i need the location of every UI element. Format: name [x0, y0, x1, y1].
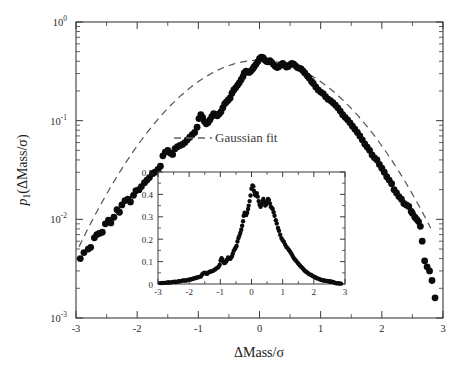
inset-data-point	[245, 211, 249, 215]
inset-x-tick-label: 3	[343, 287, 348, 297]
data-point	[388, 180, 395, 187]
inset-data-point	[277, 228, 281, 232]
inset-data-point	[246, 203, 250, 207]
inset-data-point	[247, 199, 251, 203]
inset-y-tick-label: 0.2	[142, 235, 153, 245]
data-point	[426, 268, 433, 275]
inset-y-tick-label: 0.1	[142, 257, 153, 267]
inset-y-tick-label: 0	[149, 280, 154, 290]
data-point	[419, 238, 426, 245]
data-point	[417, 223, 424, 230]
inset-plot: -3-2-1012300.10.20.30.40.5	[142, 168, 348, 298]
data-point	[111, 214, 118, 221]
inset-data-point	[240, 224, 244, 228]
data-point	[432, 294, 439, 301]
data-point	[116, 209, 123, 216]
data-point	[87, 244, 94, 251]
inset-x-tick-label: -3	[154, 287, 162, 297]
inset-data-point	[272, 213, 276, 217]
inset-x-tick-label: 0	[249, 287, 254, 297]
x-tick-label: 0	[257, 323, 262, 334]
data-point	[429, 277, 436, 284]
inset-x-tick-label: 2	[312, 287, 317, 297]
inset-y-tick-label: 0.3	[142, 212, 154, 222]
inset-data-point	[251, 184, 255, 188]
data-point	[127, 199, 134, 206]
inset-y-tick-label: 0.4	[142, 190, 154, 200]
inset-data-point	[256, 194, 260, 198]
inset-data-point	[339, 281, 343, 285]
inset-data-point	[241, 219, 245, 223]
data-point	[77, 255, 84, 262]
x-tick-label: -2	[133, 323, 142, 334]
data-point	[157, 163, 164, 170]
figure-container: -3-2-1012310-310-210-1100 ΔMass/σ p1(ΔMa…	[0, 0, 461, 372]
inset-data-point	[218, 263, 222, 267]
x-axis-label: ΔMass/σ	[234, 345, 284, 360]
x-tick-label: 2	[379, 323, 384, 334]
inset-x-tick-label: 1	[280, 287, 285, 297]
data-point	[99, 229, 106, 236]
inset-data-point	[234, 244, 238, 248]
inset-data-point	[239, 228, 243, 232]
x-tick-label: 3	[440, 323, 445, 334]
x-tick-label: 1	[318, 323, 323, 334]
inset-x-tick-label: -2	[185, 287, 193, 297]
data-point	[421, 257, 428, 264]
inset-x-tick-label: -1	[217, 287, 225, 297]
legend-label: Gaussian fit	[215, 130, 278, 145]
x-tick-label: -3	[72, 323, 81, 334]
probability-distribution-chart: -3-2-1012310-310-210-1100 ΔMass/σ p1(ΔMa…	[0, 0, 461, 372]
inset-data-point	[248, 193, 252, 197]
x-tick-label: -1	[194, 323, 203, 334]
inset-data-point	[275, 221, 279, 225]
inset-y-tick-label: 0.5	[142, 168, 154, 178]
data-point	[194, 124, 201, 131]
